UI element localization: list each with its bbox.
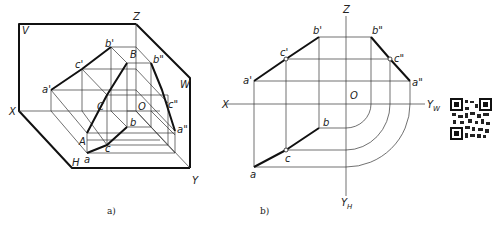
label-b-prime: b' — [105, 38, 114, 49]
label-c-prime: c' — [75, 59, 83, 70]
label-x-axis: X — [8, 106, 17, 117]
label-yw-axis: YW — [427, 99, 441, 113]
figure-a: V Z W X Y H O b' c' a' B b" C c" A a" b … — [8, 11, 199, 216]
label-b-double-prime: b" — [153, 54, 164, 65]
label-c-b: c — [285, 153, 291, 164]
label-b-prime-b: b' — [313, 25, 322, 36]
label-b-b: b — [323, 117, 329, 128]
label-a-prime: a' — [42, 84, 51, 95]
label-w-plane: W — [180, 79, 191, 90]
label-origin-b: O — [350, 90, 358, 101]
label-a-double-prime-b: a" — [412, 77, 423, 88]
qr-code — [450, 98, 492, 140]
label-a-double-prime: a" — [177, 124, 188, 135]
label-B: B — [130, 49, 137, 60]
figure-canvas: V Z W X Y H O b' c' a' B b" C c" A a" b … — [0, 0, 496, 226]
label-yh-axis: YH — [341, 197, 353, 211]
label-a-b: a — [250, 169, 256, 180]
label-A: A — [78, 136, 86, 147]
caption-a: a) — [107, 206, 116, 216]
label-v-plane: V — [22, 25, 30, 36]
label-C: C — [97, 101, 104, 112]
label-z-axis: Z — [132, 11, 141, 22]
point-c — [284, 148, 288, 152]
label-a: a — [84, 154, 90, 165]
label-origin: O — [138, 101, 146, 112]
figure-b: Z X O YW YH b' c' a' b" c" a" b c a b) — [221, 4, 441, 216]
label-b-double-prime-b: b" — [372, 25, 383, 36]
caption-b: b) — [260, 206, 269, 216]
line-ab-w-projection — [151, 63, 175, 131]
label-b: b — [130, 117, 136, 128]
label-c-double-prime-b: c" — [394, 53, 404, 64]
label-c: c — [105, 143, 111, 154]
label-h-plane: H — [72, 157, 80, 168]
label-z-axis-b: Z — [342, 4, 351, 15]
label-c-double-prime: c" — [168, 99, 178, 110]
point-c-double-prime — [388, 57, 392, 61]
label-c-prime-b: c' — [280, 47, 288, 58]
label-a-prime-b: a' — [243, 75, 252, 86]
label-y-axis: Y — [192, 175, 199, 186]
label-x-axis-b: X — [221, 99, 230, 110]
